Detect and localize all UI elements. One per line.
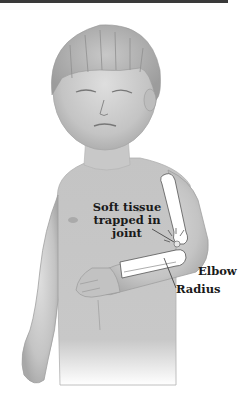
- head: [51, 25, 160, 150]
- soft-tissue-label-line-3: joint: [92, 227, 162, 240]
- elbow-label: Elbow: [198, 265, 237, 278]
- left-arm: [22, 195, 58, 383]
- radius-label: Radius: [176, 283, 221, 296]
- soft-tissue-label: Soft tissue trapped in joint: [92, 201, 162, 240]
